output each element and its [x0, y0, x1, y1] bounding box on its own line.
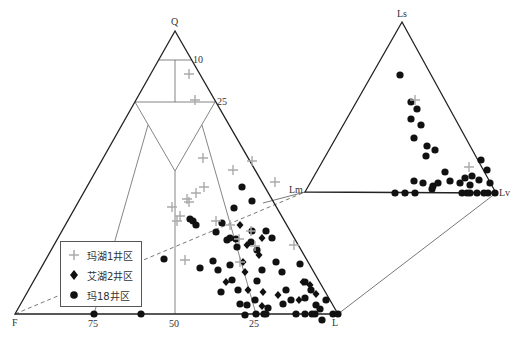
diamond-point	[259, 234, 266, 242]
legend: 玛湖1井区 艾湖2井区 玛18井区	[60, 241, 142, 307]
circle-point	[217, 288, 224, 295]
circle-point	[423, 142, 430, 149]
circle-point	[258, 266, 265, 273]
tick-25-right: 25	[217, 96, 227, 107]
circle-point	[230, 204, 237, 211]
circle-point	[279, 300, 286, 307]
circle-point	[401, 189, 408, 196]
circle-point	[441, 168, 448, 175]
vertex-ls-label: Ls	[397, 8, 407, 19]
diamond-point	[242, 268, 249, 276]
circle-point	[137, 310, 144, 317]
circle-point	[248, 197, 255, 204]
circle-point	[160, 255, 167, 262]
diamond-point	[223, 278, 230, 286]
plus-point	[191, 188, 201, 198]
diamond-point	[259, 302, 266, 310]
plus-point	[235, 257, 245, 267]
circle-point	[301, 294, 308, 301]
legend-item-aihu2: 艾湖2井区	[67, 267, 133, 283]
circle-point	[233, 243, 240, 250]
circle-point	[287, 296, 294, 303]
diamond-point	[275, 291, 282, 299]
circle-point	[473, 189, 480, 196]
circle-point	[282, 286, 289, 293]
diamond-point	[296, 296, 303, 304]
circle-point	[391, 189, 398, 196]
circle-point	[268, 234, 275, 241]
circle-point	[272, 258, 279, 265]
tick-50: 50	[169, 318, 179, 329]
vertex-f-label: F	[12, 317, 18, 328]
plus-point	[289, 240, 299, 250]
circle-point	[296, 260, 303, 267]
vertex-l-label: L	[332, 317, 338, 328]
circle-point	[209, 257, 216, 264]
circle-point	[192, 221, 199, 228]
circle-point	[419, 179, 426, 186]
circle-point	[238, 183, 245, 190]
diamond-point	[260, 288, 267, 296]
circle-point	[90, 310, 97, 317]
circle-point	[431, 146, 438, 153]
circle-point	[226, 261, 233, 268]
dashed-boundary	[15, 192, 305, 314]
circle-point	[491, 189, 498, 196]
circle-point	[468, 172, 475, 179]
legend-item-ma18: 玛18井区	[67, 287, 130, 303]
circle-point	[422, 152, 429, 159]
circle-point	[252, 310, 259, 317]
circle-point	[410, 134, 417, 141]
circle-point	[466, 181, 473, 188]
circle-point	[278, 268, 285, 275]
tick-10: 10	[193, 54, 203, 65]
circle-point	[196, 264, 203, 271]
circle-point	[407, 115, 414, 122]
legend-item-mahu1: 玛湖1井区	[67, 247, 133, 263]
diamond-marker-icon	[67, 269, 81, 281]
tick-75: 75	[88, 318, 98, 329]
circle-point	[234, 286, 241, 293]
circle-point	[446, 177, 453, 184]
plus-point	[180, 255, 190, 265]
plus-point	[225, 220, 235, 230]
circle-point	[243, 301, 250, 308]
circle-point	[262, 310, 269, 317]
plus-point	[167, 202, 177, 212]
circle-point	[483, 166, 490, 173]
diamond-point	[237, 221, 244, 229]
circle-point	[322, 296, 329, 303]
circle-point	[334, 310, 341, 317]
vertex-q-label: Q	[171, 16, 179, 27]
plus-point	[464, 162, 474, 172]
plus-point	[184, 69, 194, 79]
circle-point	[223, 236, 230, 243]
circle-point	[461, 174, 468, 181]
circle-point	[301, 310, 308, 317]
circle-point	[253, 277, 260, 284]
circle-point	[417, 121, 424, 128]
circle-point	[228, 276, 235, 283]
circle-point	[251, 296, 258, 303]
plus-point	[199, 182, 209, 192]
tick-25-bottom: 25	[249, 318, 259, 329]
circle-point	[292, 310, 299, 317]
circle-point	[410, 177, 417, 184]
plus-point	[198, 153, 208, 163]
circle-point	[486, 179, 493, 186]
vertex-lm-label: Lm	[289, 184, 303, 195]
connector-lv	[338, 193, 496, 314]
circle-point	[413, 105, 420, 112]
circle-point	[396, 71, 403, 78]
circle-point	[318, 316, 325, 323]
circle-point	[477, 156, 484, 163]
plus-point	[228, 165, 238, 175]
circle-marker-icon	[67, 289, 81, 301]
circle-point	[214, 266, 221, 273]
circle-point	[236, 300, 243, 307]
plus-marker-icon	[67, 249, 81, 261]
circle-point	[475, 176, 482, 183]
circle-point	[484, 189, 491, 196]
circle-point	[212, 228, 219, 235]
circle-point	[463, 189, 470, 196]
